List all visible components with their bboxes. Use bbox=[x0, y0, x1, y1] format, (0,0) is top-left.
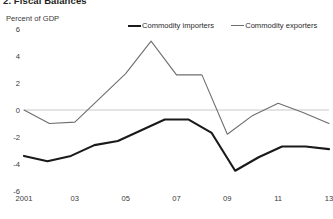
x-tick-label: 2001 bbox=[16, 194, 33, 203]
y-tick-label: -4 bbox=[13, 160, 20, 169]
x-tick-label: 07 bbox=[172, 194, 180, 203]
x-tick-label: 09 bbox=[223, 194, 231, 203]
x-tick-label: 13 bbox=[325, 194, 333, 203]
fiscal-balances-chart: 2. Fiscal Balances Percent of GDP Commod… bbox=[0, 0, 333, 219]
page-title: 2. Fiscal Balances bbox=[3, 0, 87, 6]
y-tick-label: 0 bbox=[16, 106, 20, 115]
x-tick-label: 11 bbox=[274, 194, 282, 203]
x-axis-tick-labels: 2001030507091113 bbox=[24, 194, 329, 208]
x-tick-label: 03 bbox=[71, 194, 79, 203]
plot-area bbox=[24, 29, 329, 191]
y-tick-label: -2 bbox=[13, 133, 20, 142]
y-tick-label: 2 bbox=[16, 79, 20, 88]
y-tick-label: 4 bbox=[16, 52, 20, 61]
legend-swatch-importers-icon bbox=[128, 25, 141, 27]
y-tick-label: -6 bbox=[13, 187, 20, 196]
x-tick-label: 05 bbox=[121, 194, 129, 203]
y-tick-label: 6 bbox=[16, 25, 20, 34]
legend-swatch-exporters-icon bbox=[231, 25, 244, 26]
axis-unit-label: Percent of GDP bbox=[6, 14, 59, 23]
chart-canvas bbox=[24, 29, 329, 191]
series-line-commodity-importers bbox=[24, 119, 329, 170]
y-axis-tick-labels: 6420-2-4-6 bbox=[0, 0, 24, 219]
